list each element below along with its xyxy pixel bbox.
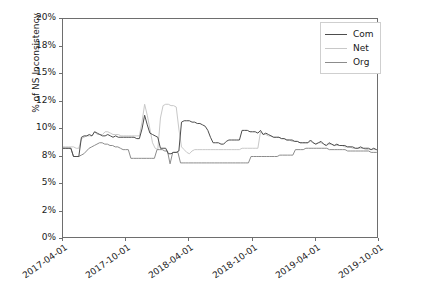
x-tick-label: 2018-10-01 <box>208 243 259 282</box>
y-tick-label: 12% <box>4 96 56 105</box>
x-tick-label: 2017-04-01 <box>18 243 69 282</box>
y-tick-label: 2% <box>4 206 56 215</box>
x-tick-label: 2017-10-01 <box>81 243 132 282</box>
y-tick-label: 8% <box>4 151 56 160</box>
x-tick-mark <box>125 238 126 241</box>
x-tick-label: 2019-04-01 <box>271 243 322 282</box>
legend-label: Net <box>353 44 369 53</box>
legend-swatch-icon <box>325 48 347 49</box>
chart-legend: ComNetOrg <box>320 22 381 74</box>
y-tick-label: 20% <box>4 13 56 22</box>
legend-item-com[interactable]: Com <box>325 27 374 41</box>
x-tick-label: 2019-10-01 <box>334 243 385 282</box>
chart-figure: % of NS Inconsistency 20%18%15%12%10%8%5… <box>0 0 431 304</box>
legend-label: Com <box>353 30 374 39</box>
x-tick-mark <box>252 238 253 241</box>
legend-item-net[interactable]: Net <box>325 41 374 55</box>
y-axis-title: % of NS Inconsistency <box>31 0 41 173</box>
y-tick-label: 18% <box>4 41 56 50</box>
legend-label: Org <box>353 58 369 67</box>
x-tick-mark <box>378 238 379 241</box>
legend-swatch-icon <box>325 34 347 35</box>
x-tick-label: 2018-04-01 <box>145 243 196 282</box>
x-tick-mark <box>62 238 63 241</box>
legend-item-org[interactable]: Org <box>325 55 374 69</box>
x-tick-mark <box>315 238 316 241</box>
x-tick-mark <box>188 238 189 241</box>
legend-swatch-icon <box>325 62 347 63</box>
series-line-com <box>63 115 378 156</box>
series-line-net <box>63 104 378 154</box>
y-tick-label: 5% <box>4 178 56 187</box>
y-tick-label: 15% <box>4 68 56 77</box>
y-tick-label: 10% <box>4 123 56 132</box>
y-tick-label: 0% <box>4 233 56 242</box>
series-line-org <box>63 143 378 164</box>
